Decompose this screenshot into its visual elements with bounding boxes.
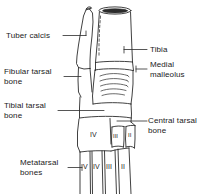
tarsal-two-right xyxy=(135,126,136,149)
central-tarsal-distal-border xyxy=(80,116,132,118)
metatarsal-iv-left xyxy=(92,152,93,195)
numeral-metatarsal-five: V xyxy=(83,163,88,171)
tibia-medullary-cavity xyxy=(103,9,128,13)
bone-outlines xyxy=(58,7,147,194)
tarsal-three-right xyxy=(124,127,125,148)
fibular-tarsal-outline-left xyxy=(77,9,91,69)
talus-ridge-ends xyxy=(127,76,130,87)
talus-proximal-border xyxy=(95,69,133,71)
numeral-metatarsal-two: II xyxy=(121,163,125,171)
label-fibular-tarsal-bone-line1: Fibular tarsal xyxy=(4,67,52,77)
label-fibular-tarsal-bone-line2: bone xyxy=(4,77,22,87)
label-medial-malleolus-line2: malleolus xyxy=(150,70,185,80)
talus-distal-border xyxy=(93,103,131,104)
label-tibia: Tibia xyxy=(150,45,168,55)
metatarsal-proximal-border xyxy=(111,148,129,151)
tarsal-four-left xyxy=(78,119,81,152)
numeral-metatarsal-three: III xyxy=(106,163,112,171)
label-metatarsal-bones-line2: bones xyxy=(20,168,42,178)
label-central-tarsal-bone-line1: Central tarsal xyxy=(148,116,197,126)
numeral-tarsal-two: II xyxy=(128,132,131,140)
label-tibial-tarsal-bone-line2: bone xyxy=(4,111,22,121)
label-central-tarsal-bone-line2: bone xyxy=(148,126,166,136)
fibular-tarsal-lower-right xyxy=(90,69,92,93)
label-metatarsal-bones-line1: Metatarsal xyxy=(20,158,58,168)
leader-lines xyxy=(58,31,147,171)
tarsal-four-distal xyxy=(80,151,111,152)
talus-trochlear-ridges xyxy=(100,74,128,96)
label-tuber-calcis: Tuber calcis xyxy=(6,31,50,41)
metatarsal-ii-left xyxy=(118,149,120,194)
tibia-lateral-edge xyxy=(131,12,133,63)
tarsal-three-left xyxy=(112,127,113,147)
fibular-tarsal-outline-right xyxy=(90,9,94,69)
metatarsal-iv-right xyxy=(102,151,103,194)
metatarsal-v-right xyxy=(90,152,91,195)
central-row-left xyxy=(80,97,81,118)
tarsal-two-top xyxy=(126,125,135,126)
tibia-distal-line xyxy=(96,61,133,62)
tarsal-two-left xyxy=(126,127,127,148)
tarsal-four-right xyxy=(110,119,111,145)
numeral-tarsal-four: IV xyxy=(90,131,97,139)
numeral-metatarsal-four: IV xyxy=(93,163,100,171)
tarsal-three-bottom xyxy=(112,146,124,147)
numeral-tarsal-three: III xyxy=(113,133,118,141)
tibia-distal-lateral xyxy=(133,62,134,71)
anatomical-figure: Tuber calcis Fibular tarsal bone Tibial … xyxy=(0,0,205,194)
metatarsal-iii-left xyxy=(105,151,106,194)
metatarsal-ii-right xyxy=(129,148,131,194)
label-medial-malleolus-line1: Medial xyxy=(150,60,174,70)
metatarsal-iii-right xyxy=(115,150,117,194)
tarsal-three-top xyxy=(112,126,124,127)
fibular-tarsal-lower-left xyxy=(78,68,81,98)
tibia-hidden-margin-dashed xyxy=(99,16,101,56)
label-tibial-tarsal-bone-line1: Tibial tarsal xyxy=(4,101,46,111)
central-row-right xyxy=(131,104,132,122)
talus-medial-border xyxy=(93,70,96,104)
